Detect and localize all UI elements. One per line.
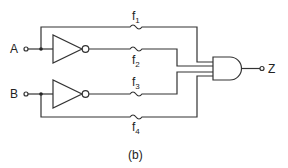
- output-z-label: Z: [268, 62, 275, 76]
- wire-f3: f3: [89, 72, 213, 96]
- input-b-label: B: [10, 87, 18, 101]
- and-gate-body-icon: [213, 57, 242, 80]
- figure-caption: (b): [128, 148, 143, 162]
- label-f2: f2: [132, 53, 140, 69]
- not-gate-a-triangle-icon: [53, 35, 82, 63]
- logic-circuit-diagram: A f1 f2 B f3 f4: [0, 0, 288, 168]
- not-gate-b-triangle-icon: [53, 80, 82, 108]
- label-f4: f4: [132, 120, 140, 136]
- not-gate-b: [53, 80, 89, 108]
- input-b: B: [10, 87, 53, 101]
- wire-f2: f2: [89, 47, 213, 69]
- input-b-terminal-icon: [24, 92, 28, 96]
- and-gate: Z: [213, 57, 275, 80]
- input-a-terminal-icon: [24, 47, 28, 51]
- wire-f4: f4: [41, 76, 213, 136]
- label-f1: f1: [132, 9, 140, 25]
- not-gate-a: [53, 35, 89, 63]
- output-z-terminal-icon: [260, 67, 264, 71]
- wire-f1: f1: [41, 9, 213, 62]
- label-f3: f3: [132, 75, 140, 91]
- input-a: A: [10, 42, 53, 56]
- input-a-label: A: [10, 42, 18, 56]
